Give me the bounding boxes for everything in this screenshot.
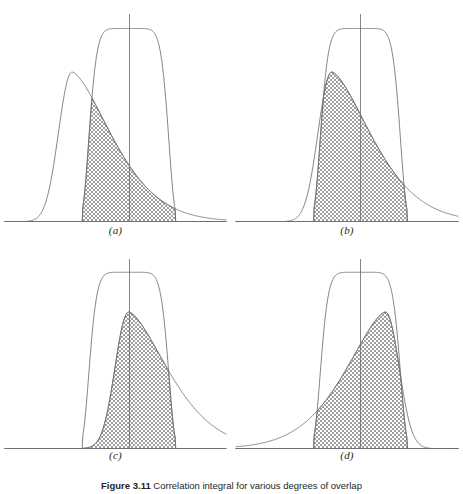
panel-a-label: (a) <box>0 224 231 236</box>
panel-a-plot <box>0 0 231 247</box>
panel-a: (a) <box>0 0 231 247</box>
panel-grid: (a) (b) (c) (d) <box>0 0 463 472</box>
figure-caption-number: Figure 3.11 <box>101 480 151 491</box>
overlap-region-d <box>236 312 459 448</box>
overlap-region-c <box>5 312 227 448</box>
figure-root: (a) (b) (c) (d) Figure 3.11 Correlation … <box>0 0 463 494</box>
figure-caption: Figure 3.11 Correlation integral for var… <box>0 480 463 494</box>
panel-d-label: (d) <box>231 449 463 461</box>
figure-caption-text: Correlation integral for various degrees… <box>153 480 362 491</box>
panel-c: (c) <box>0 247 231 472</box>
panel-b-plot <box>231 0 463 247</box>
panel-d-plot <box>231 247 463 472</box>
panel-c-plot <box>0 247 231 472</box>
panel-c-label: (c) <box>0 449 231 461</box>
panel-b-label: (b) <box>231 224 463 236</box>
overlap-region-a <box>5 98 227 221</box>
panel-d: (d) <box>231 247 463 472</box>
panel-b: (b) <box>231 0 463 247</box>
overlap-region-b <box>236 72 459 221</box>
